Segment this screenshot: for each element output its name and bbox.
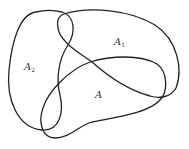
- label-a2: A2: [24, 62, 35, 73]
- curve-a: [41, 57, 166, 138]
- label-a1-subscript: 1: [121, 41, 125, 48]
- label-a2-subscript: 2: [31, 66, 35, 73]
- curve-a2: [9, 11, 74, 131]
- label-a1: A1: [114, 37, 125, 48]
- curve-a1: [58, 10, 179, 97]
- curves-svg: [0, 0, 189, 149]
- label-a-base: A: [95, 89, 102, 100]
- label-a: A: [95, 90, 102, 100]
- diagram-canvas: A2 A1 A: [0, 0, 189, 149]
